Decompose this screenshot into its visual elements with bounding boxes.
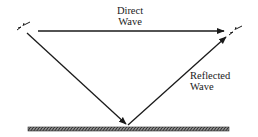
direct-wave-label-line2: Wave bbox=[108, 16, 152, 27]
ground-surface bbox=[28, 127, 229, 131]
reflected-wave-label-line2: Wave bbox=[190, 81, 230, 92]
transmitting-antenna-icon bbox=[17, 22, 30, 30]
reflected-wave-label-line1: Reflected bbox=[190, 70, 230, 81]
direct-wave-label: Direct Wave bbox=[108, 5, 152, 27]
reflected-wave-label: Reflected Wave bbox=[190, 70, 230, 92]
receiving-antenna-icon bbox=[229, 26, 242, 35]
direct-wave-label-line1: Direct bbox=[108, 5, 152, 16]
incident-wave-arrow bbox=[27, 33, 126, 124]
